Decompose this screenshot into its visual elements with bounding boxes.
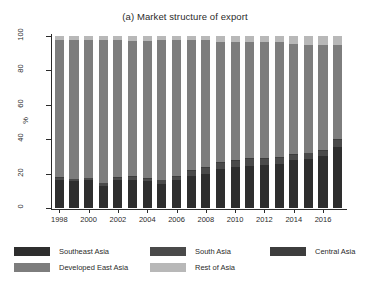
legend-item[interactable]: Central Asia bbox=[270, 247, 355, 256]
bar-segment bbox=[157, 40, 166, 179]
bar-segment bbox=[187, 176, 196, 208]
chart-title: (a) Market structure of export bbox=[0, 11, 370, 22]
bar-segment bbox=[157, 184, 166, 208]
bar-segment bbox=[143, 41, 152, 178]
bar-segment bbox=[231, 167, 240, 208]
y-tick bbox=[46, 36, 51, 37]
bar-segment bbox=[55, 40, 64, 177]
bar-column[interactable] bbox=[318, 36, 327, 208]
x-tick bbox=[323, 209, 324, 213]
bar-segment bbox=[275, 42, 284, 157]
y-tick-label: 0 bbox=[0, 202, 40, 211]
x-tick bbox=[147, 209, 148, 213]
bar-column[interactable] bbox=[187, 36, 196, 208]
legend-swatch bbox=[270, 247, 306, 256]
x-tick bbox=[235, 209, 236, 213]
bar-segment bbox=[113, 40, 122, 177]
x-tick bbox=[118, 209, 119, 213]
bar-column[interactable] bbox=[113, 36, 122, 208]
bar-segment bbox=[216, 169, 225, 208]
legend-swatch bbox=[150, 247, 186, 256]
bar-segment bbox=[333, 45, 342, 139]
bar-column[interactable] bbox=[275, 36, 284, 208]
bar-segment bbox=[172, 180, 181, 208]
bar-segment bbox=[99, 40, 108, 182]
bar-segment bbox=[69, 40, 78, 178]
bar-column[interactable] bbox=[84, 36, 93, 208]
bar-segment bbox=[128, 180, 137, 208]
y-tick-label: 40 bbox=[0, 133, 40, 142]
bar-segment bbox=[84, 180, 93, 208]
x-axis-line bbox=[51, 209, 347, 210]
y-tick-label: 60 bbox=[0, 99, 40, 108]
bar-segment bbox=[318, 45, 327, 150]
bar-column[interactable] bbox=[231, 36, 240, 208]
bar-segment bbox=[84, 40, 93, 177]
legend-label: Southeast Asia bbox=[59, 247, 109, 256]
bar-segment bbox=[304, 36, 313, 45]
legend-label: South Asia bbox=[195, 247, 231, 256]
bar-column[interactable] bbox=[333, 36, 342, 208]
bar-column[interactable] bbox=[289, 36, 298, 208]
bar-segment bbox=[318, 156, 327, 208]
bar-segment bbox=[128, 41, 137, 177]
legend-label: Rest of Asia bbox=[195, 263, 235, 272]
bar-segment bbox=[55, 180, 64, 208]
x-tick bbox=[264, 209, 265, 213]
y-axis-title: % bbox=[22, 116, 29, 125]
bar-column[interactable] bbox=[201, 36, 210, 208]
chart-legend: Southeast AsiaSouth AsiaCentral AsiaDeve… bbox=[0, 247, 370, 289]
bar-segment bbox=[143, 181, 152, 208]
bar-segment bbox=[304, 45, 313, 153]
bar-segment bbox=[333, 147, 342, 208]
legend-item[interactable]: Developed East Asia bbox=[14, 263, 128, 272]
y-tick bbox=[46, 70, 51, 71]
bar-segment bbox=[113, 180, 122, 208]
x-tick bbox=[89, 209, 90, 213]
bar-column[interactable] bbox=[128, 36, 137, 208]
legend-item[interactable]: Southeast Asia bbox=[14, 247, 109, 256]
bar-column[interactable] bbox=[69, 36, 78, 208]
bar-segment bbox=[187, 40, 196, 170]
x-tick bbox=[206, 209, 207, 213]
bar-segment bbox=[260, 42, 269, 158]
x-tick bbox=[59, 209, 60, 213]
bar-column[interactable] bbox=[216, 36, 225, 208]
bar-segment bbox=[333, 36, 342, 45]
plot-area bbox=[52, 36, 345, 208]
legend-item[interactable]: South Asia bbox=[150, 247, 231, 256]
bar-column[interactable] bbox=[157, 36, 166, 208]
legend-item[interactable]: Rest of Asia bbox=[150, 263, 235, 272]
bar-column[interactable] bbox=[304, 36, 313, 208]
bar-column[interactable] bbox=[55, 36, 64, 208]
x-tick-label: 2016 bbox=[303, 215, 343, 224]
x-tick bbox=[294, 209, 295, 213]
y-tick-label: 100 bbox=[0, 30, 40, 39]
bar-column[interactable] bbox=[260, 36, 269, 208]
bar-column[interactable] bbox=[143, 36, 152, 208]
bar-column[interactable] bbox=[245, 36, 254, 208]
bar-segment bbox=[172, 40, 181, 176]
bar-segment bbox=[216, 42, 225, 162]
bar-segment bbox=[245, 42, 254, 158]
bar-column[interactable] bbox=[99, 36, 108, 208]
bar-segment bbox=[318, 36, 327, 45]
legend-label: Developed East Asia bbox=[59, 263, 128, 272]
legend-swatch bbox=[14, 247, 50, 256]
bar-segment bbox=[333, 140, 342, 147]
y-tick bbox=[46, 174, 51, 175]
bar-segment bbox=[99, 186, 108, 208]
bar-segment bbox=[304, 159, 313, 208]
bar-column[interactable] bbox=[172, 36, 181, 208]
legend-swatch bbox=[14, 263, 50, 272]
y-tick bbox=[46, 139, 51, 140]
bar-segment bbox=[245, 166, 254, 208]
legend-swatch bbox=[150, 263, 186, 272]
bar-segment bbox=[231, 42, 240, 160]
y-tick-label: 20 bbox=[0, 168, 40, 177]
y-tick bbox=[46, 105, 51, 106]
chart-figure: (a) Market structure of export % 0204060… bbox=[0, 0, 370, 295]
y-tick bbox=[46, 208, 51, 209]
legend-label: Central Asia bbox=[315, 247, 355, 256]
bar-segment bbox=[260, 165, 269, 208]
